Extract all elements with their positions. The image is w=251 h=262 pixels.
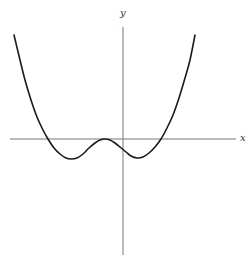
y-axis-label: y	[120, 7, 126, 18]
function-curve	[14, 35, 195, 159]
x-axis-label: x	[240, 132, 246, 143]
function-plot	[0, 0, 251, 262]
